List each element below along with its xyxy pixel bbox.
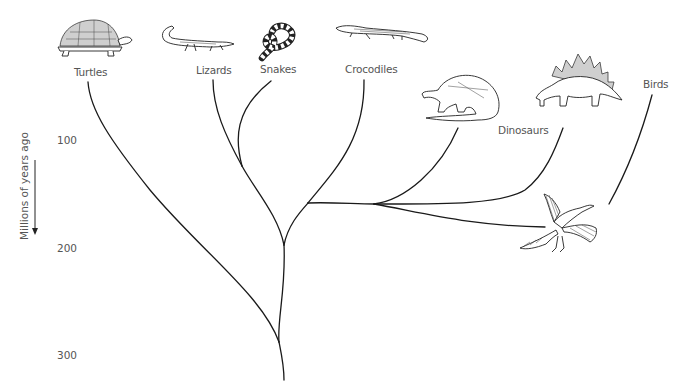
branch-lepidosaurs: [242, 166, 284, 245]
branch-dinosaurs-stem: [308, 203, 374, 204]
axis-tick-200: 200: [57, 242, 77, 254]
branch-root: [279, 342, 284, 380]
crocodile-illustration: [336, 26, 428, 42]
archaeopteryx-illustration: [520, 194, 597, 252]
phylogenetic-tree-diagram: Turtles Lizards Snakes Crocodiles Dinosa…: [0, 0, 684, 392]
branch-stegosaur: [374, 128, 563, 204]
branch-lizards: [213, 80, 242, 166]
branch-snakes: [238, 81, 271, 166]
taxon-label-turtles: Turtles: [74, 66, 107, 78]
tortoise-illustration: [58, 20, 132, 56]
lizard-illustration: [162, 26, 234, 51]
branch-sauropod: [374, 128, 458, 204]
sauropod-illustration: [422, 75, 499, 121]
taxon-label-snakes: Snakes: [260, 63, 296, 75]
branch-crocodiles: [308, 80, 364, 203]
time-axis-arrow: [32, 160, 38, 235]
axis-title: Millions of years ago: [18, 132, 30, 240]
branch-main-stem: [279, 245, 285, 342]
branch-turtles: [88, 82, 279, 342]
snake-illustration: [262, 26, 292, 58]
axis-tick-100: 100: [57, 134, 77, 146]
taxon-label-dinosaurs: Dinosaurs: [498, 124, 549, 136]
taxon-label-lizards: Lizards: [196, 64, 232, 76]
taxon-label-birds: Birds: [643, 78, 668, 90]
taxon-label-crocodiles: Crocodiles: [345, 63, 397, 75]
branch-archosaurs: [284, 203, 308, 245]
stegosaurus-illustration: [536, 54, 622, 106]
tree-canvas: [0, 0, 684, 392]
axis-tick-300: 300: [57, 349, 77, 361]
branch-birds-modern: [609, 95, 652, 204]
branch-birds: [374, 204, 545, 227]
